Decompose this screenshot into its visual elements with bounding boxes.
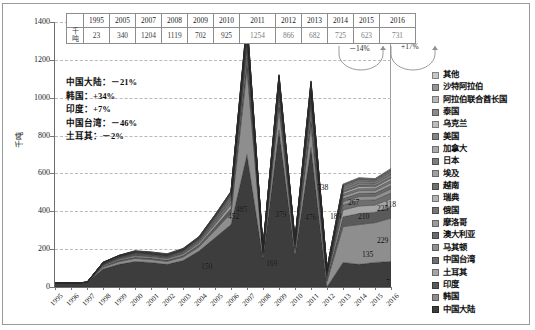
legend-item-label: 阿拉伯联合酋长国	[443, 94, 507, 106]
y-tick-label: 200	[24, 245, 50, 253]
legend-item-label: 中国台湾	[443, 254, 475, 266]
x-tick-mark	[247, 287, 248, 290]
legend-item-label: 摩洛哥	[443, 217, 467, 229]
legend-item-label: 埃及	[443, 168, 459, 180]
legend-item[interactable]: 埃及	[432, 168, 507, 180]
x-tick-mark	[327, 287, 328, 290]
x-axis-line	[54, 287, 391, 288]
legend-item-label: 沙特阿拉伯	[443, 81, 483, 93]
legend-item-label: 加拿大	[443, 143, 467, 155]
y-tick-label: 1400	[24, 18, 50, 26]
y-tick-label: 400	[24, 207, 50, 215]
table-year-cell: 2013	[302, 14, 328, 28]
legend-item[interactable]: 乌克兰	[432, 118, 507, 130]
x-tick-mark	[119, 287, 120, 290]
legend-swatch-icon	[432, 232, 439, 239]
legend-item-label: 其他	[443, 69, 459, 81]
data-point-label: 379	[275, 210, 286, 219]
x-tick-mark	[311, 287, 312, 290]
legend-item-label: 泰国	[443, 106, 459, 118]
legend-swatch-icon	[432, 294, 439, 301]
legend-item-label: 日本	[443, 155, 459, 167]
table-year-cell: 2008	[162, 14, 188, 28]
legend-swatch-icon	[432, 220, 439, 227]
x-tick-mark	[295, 287, 296, 290]
table-year-cell: 2007	[136, 14, 162, 28]
x-tick-mark	[167, 287, 168, 290]
legend-item[interactable]: 澳大利亚	[432, 229, 507, 241]
x-tick-mark	[135, 287, 136, 290]
legend-item[interactable]: 泰国	[432, 106, 507, 118]
legend-swatch-icon	[432, 207, 439, 214]
legend-item[interactable]: 中国台湾	[432, 254, 507, 266]
legend-item-label: 乌克兰	[443, 118, 467, 130]
x-tick-mark	[55, 287, 56, 290]
legend-swatch-icon	[432, 158, 439, 165]
table-value-cell: 702	[188, 28, 214, 44]
legend-swatch-icon	[432, 183, 439, 190]
y-tick-mark	[50, 98, 54, 99]
table-year-cell: 2014	[328, 14, 354, 28]
legend-item[interactable]: 沙特阿拉伯	[432, 81, 507, 93]
x-tick-mark	[391, 287, 392, 290]
x-tick-mark	[359, 287, 360, 290]
y-tick-mark	[50, 249, 54, 250]
table-value-cell: 1204	[136, 28, 162, 44]
table-value-cell: 725	[328, 28, 354, 44]
table-corner	[67, 14, 84, 28]
x-tick-mark	[375, 287, 376, 290]
table-year-cell: 2016	[380, 14, 416, 28]
y-tick-label: 800	[24, 132, 50, 140]
data-point-label: 267	[348, 198, 359, 207]
legend-item[interactable]: 阿拉伯联合酋长国	[432, 94, 507, 106]
legend-item[interactable]: 印度	[432, 279, 507, 291]
legend-item[interactable]: 日本	[432, 155, 507, 167]
legend-swatch-icon	[432, 244, 439, 251]
y-tick-mark	[50, 173, 54, 174]
data-point-label: 150	[201, 262, 212, 271]
x-tick-mark	[199, 287, 200, 290]
y-tick-label: 600	[24, 169, 50, 177]
legend-item[interactable]: 俄国	[432, 205, 507, 217]
table-value-cell: 623	[354, 28, 380, 44]
y-tick-label: 1200	[24, 56, 50, 64]
legend-item[interactable]: 加拿大	[432, 143, 507, 155]
table-year-cell: 2011	[240, 14, 276, 28]
legend-item[interactable]: 土耳其	[432, 267, 507, 279]
table-header-row: 1995200520072008200920102011201220132014…	[67, 14, 416, 28]
callout-arrows: －14% +17%	[333, 44, 445, 78]
legend-item[interactable]: 韩国	[432, 291, 507, 303]
legend-swatch-icon	[432, 257, 439, 264]
legend-item[interactable]: 越南	[432, 180, 507, 192]
legend-item[interactable]: 马其顿	[432, 242, 507, 254]
legend-item[interactable]: 中国大陆	[432, 304, 507, 316]
legend-item-label: 韩国	[443, 291, 459, 303]
table-value-cell: 23	[84, 28, 110, 44]
legend-item[interactable]: 其他	[432, 69, 507, 81]
y-tick-mark	[50, 60, 54, 61]
table-value-cell: 925	[214, 28, 240, 44]
legend-swatch-icon	[432, 96, 439, 103]
legend-item[interactable]: 瑞典	[432, 192, 507, 204]
growth-annotation-item: 土耳其：－2%	[66, 130, 137, 144]
legend-item-label: 俄国	[443, 205, 459, 217]
x-tick-mark	[87, 287, 88, 290]
table-year-cell: 1995	[84, 14, 110, 28]
table-value-cell: 1254	[240, 28, 276, 44]
legend-swatch-icon	[432, 72, 439, 79]
y-tick-mark	[50, 287, 54, 288]
legend-item[interactable]: 摩洛哥	[432, 217, 507, 229]
legend-item-label: 瑞典	[443, 192, 459, 204]
x-tick-mark	[183, 287, 184, 290]
table-year-cell: 2009	[188, 14, 214, 28]
data-point-label: 229	[377, 236, 388, 245]
data-point-label: 169	[266, 259, 277, 268]
legend-swatch-icon	[432, 170, 439, 177]
data-point-label: 225	[377, 204, 388, 213]
table-value-row: 千吨23340120411197029251254866682725623731	[67, 28, 416, 44]
legend-swatch-icon	[432, 84, 439, 91]
legend-item[interactable]: 美国	[432, 131, 507, 143]
data-point-label: 452	[228, 212, 239, 221]
y-tick-label: 1000	[24, 94, 50, 102]
table-value-cell: 340	[110, 28, 136, 44]
